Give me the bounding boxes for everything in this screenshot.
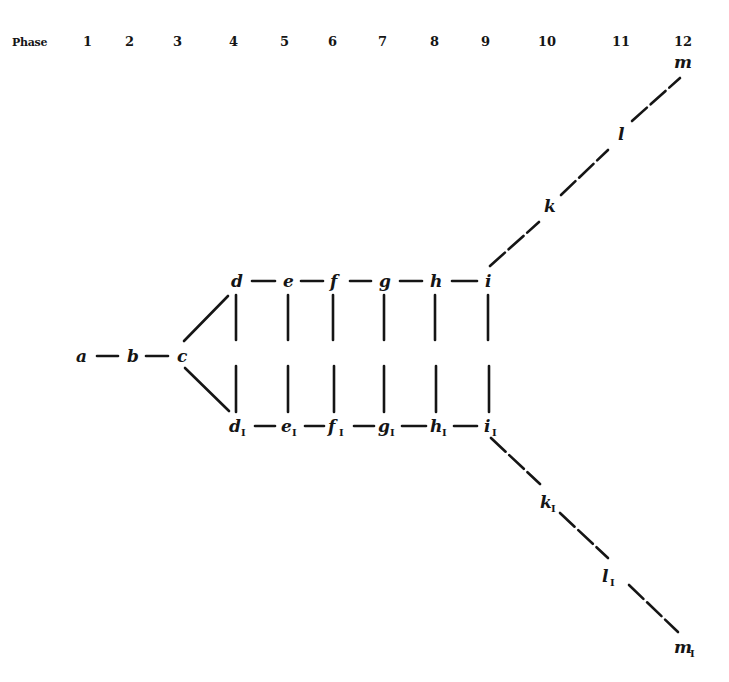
phase-header: Phase 1 2 3 4 5 6 7 8 9 10 11 12 [12, 34, 692, 49]
node-h1-letter: h [430, 416, 442, 436]
phase-label-2: 2 [125, 34, 134, 49]
node-e1-subscript: I [292, 427, 297, 438]
node-e: e [283, 271, 294, 291]
node-m1: m I [674, 637, 695, 659]
phase-label-8: 8 [430, 34, 439, 49]
node-b: b [127, 346, 139, 366]
node-d1: d I [229, 416, 246, 438]
phase-label-10: 10 [538, 34, 556, 49]
node-i1-subscript: I [492, 427, 497, 438]
node-g1-subscript: I [390, 427, 395, 438]
node-i1: i I [484, 416, 497, 438]
edge-i1-k1 [491, 438, 540, 484]
edge-c-d [184, 296, 228, 341]
node-i: i [485, 271, 491, 291]
node-a: a [76, 346, 87, 366]
node-k1: k I [540, 492, 556, 514]
node-h: h [430, 271, 442, 291]
node-l1: l I [602, 566, 615, 588]
node-h1: h I [430, 416, 447, 438]
node-m: m [674, 52, 692, 72]
phase-label-12: 12 [674, 34, 692, 49]
node-e1: e I [281, 416, 297, 438]
node-f1: f I [327, 416, 344, 438]
node-f: f [329, 271, 340, 291]
node-l1-subscript: I [610, 577, 615, 588]
node-h1-subscript: I [442, 427, 447, 438]
node-k1-letter: k [540, 492, 552, 512]
edge-c-d1 [185, 368, 229, 411]
edge-l1-m1 [629, 585, 678, 632]
node-c: c [177, 346, 188, 366]
node-f1-letter: f [327, 416, 338, 436]
node-k: k [544, 196, 556, 216]
phase-label-1: 1 [83, 34, 92, 49]
node-g: g [379, 271, 391, 291]
vertical-links [236, 295, 489, 412]
node-d1-subscript: I [241, 427, 246, 438]
node-d1-letter: d [229, 416, 241, 436]
node-i1-letter: i [484, 416, 490, 436]
edge-k-l [561, 150, 608, 195]
node-l: l [618, 124, 625, 144]
phase-label-7: 7 [378, 34, 387, 49]
phase-label-5: 5 [280, 34, 289, 49]
node-k1-subscript: I [551, 503, 556, 514]
phase-label-11: 11 [612, 34, 630, 49]
node-f1-subscript: I [339, 427, 344, 438]
node-g1: g I [378, 416, 395, 438]
edge-i-k [490, 222, 539, 266]
edge-k1-l1 [560, 513, 608, 558]
phase-label-3: 3 [173, 34, 182, 49]
phase-label-4: 4 [229, 34, 238, 49]
phase-title: Phase [12, 36, 47, 49]
phase-label-6: 6 [328, 34, 337, 49]
phase-diagram: Phase 1 2 3 4 5 6 7 8 9 10 11 12 [0, 0, 729, 682]
phase-label-9: 9 [481, 34, 490, 49]
edge-l-m [632, 78, 680, 121]
node-l1-letter: l [602, 566, 609, 586]
node-m1-subscript: I [690, 648, 695, 659]
node-g1-letter: g [378, 416, 390, 436]
node-e1-letter: e [281, 416, 292, 436]
node-d: d [231, 271, 243, 291]
